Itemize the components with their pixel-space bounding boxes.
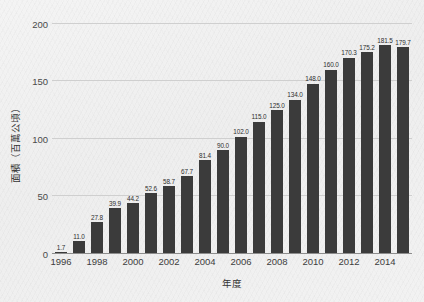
bar-value-label: 27.8 [91,214,103,221]
bar-rect[interactable] [361,52,374,254]
y-tick-label: 0 [2,249,48,260]
y-axis-title: 面積（百萬公頃） [8,73,22,213]
bar-value-label: 179.7 [395,39,411,46]
bar-rect[interactable] [199,160,212,254]
bar-rect[interactable] [397,47,410,254]
x-tick-label: 2006 [230,256,251,267]
x-tick-label: 2008 [266,256,287,267]
bar-rect[interactable] [127,203,140,254]
bar-item[interactable]: 44.2 [127,18,140,254]
bar-series-layer: 1.711.027.839.944.252.658.767.781.490.01… [52,18,412,254]
x-axis-tick-layer: 1996199820002002200420062008201020122014 [52,256,412,272]
y-tick-label: 200 [2,18,48,29]
bar-rect[interactable] [271,110,284,254]
bar-value-label: 11.0 [73,233,85,240]
bar-item[interactable]: 90.0 [217,18,230,254]
bar-rect[interactable] [91,222,104,254]
bar-item[interactable]: 1.7 [55,18,68,254]
x-tick-label: 2004 [194,256,215,267]
bar-item[interactable]: 11.0 [73,18,86,254]
bar-value-label: 58.7 [163,178,175,185]
bar-value-label: 90.0 [217,142,229,149]
bar-item[interactable]: 52.6 [145,18,158,254]
x-tick-label: 2012 [338,256,359,267]
bar-value-label: 175.2 [359,44,375,51]
bar-value-label: 160.0 [323,61,339,68]
bar-item[interactable]: 27.8 [91,18,104,254]
bar-item[interactable]: 67.7 [181,18,194,254]
bar-item[interactable]: 179.7 [397,18,410,254]
bar-rect[interactable] [307,84,320,254]
bar-item[interactable]: 81.4 [199,18,212,254]
bar-value-label: 170.3 [341,49,357,56]
bar-value-label: 102.0 [233,128,249,135]
x-axis-title: 年度 [52,276,412,290]
x-tick-label: 2010 [302,256,323,267]
bar-rect[interactable] [253,122,266,254]
bar-value-label: 134.0 [287,91,303,98]
bar-value-label: 148.0 [305,75,321,82]
bar-item[interactable]: 134.0 [289,18,302,254]
bar-value-label: 115.0 [251,113,266,120]
bar-rect[interactable] [325,70,338,254]
bar-value-label: 52.6 [145,185,157,192]
bar-item[interactable]: 125.0 [271,18,284,254]
plot-area: 1.711.027.839.944.252.658.767.781.490.01… [52,18,412,254]
bar-item[interactable]: 175.2 [361,18,374,254]
bar-rect[interactable] [379,45,392,254]
bar-item[interactable]: 181.5 [379,18,392,254]
x-tick-label: 2002 [158,256,179,267]
bar-value-label: 181.5 [377,37,393,44]
bar-item[interactable]: 102.0 [235,18,248,254]
bar-item[interactable]: 58.7 [163,18,176,254]
x-tick-label: 1996 [50,256,71,267]
x-tick-label: 2014 [374,256,395,267]
bar-rect[interactable] [289,100,302,254]
bar-item[interactable]: 170.3 [343,18,356,254]
bar-item[interactable]: 148.0 [307,18,320,254]
x-tick-label: 2000 [122,256,143,267]
bar-rect[interactable] [145,193,158,254]
bar-rect[interactable] [109,208,122,254]
x-tick-label: 1998 [86,256,107,267]
bar-rect[interactable] [163,186,176,254]
bar-value-label: 67.7 [181,168,193,175]
x-axis-line [52,253,412,254]
bar-value-label: 39.9 [109,200,121,207]
bar-item[interactable]: 160.0 [325,18,338,254]
bar-rect[interactable] [343,58,356,254]
bar-value-label: 44.2 [127,195,139,202]
bar-value-label: 1.7 [57,244,66,251]
chart-container: 050100150200 1.711.027.839.944.252.658.7… [0,0,424,302]
bar-rect[interactable] [181,176,194,254]
bar-item[interactable]: 115.0 [253,18,266,254]
bar-item[interactable]: 39.9 [109,18,122,254]
bar-value-label: 81.4 [199,152,211,159]
bar-rect[interactable] [217,150,230,254]
bar-rect[interactable] [235,137,248,254]
bar-value-label: 125.0 [269,102,285,109]
